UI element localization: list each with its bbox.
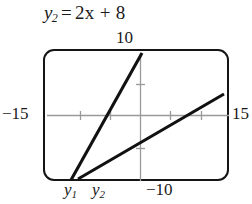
- y-max-label: 10: [116, 28, 133, 48]
- curve-label-y1: y1: [64, 180, 77, 200]
- graph-figure: y2=2x + 8 10 −15 15 −10 y1 y2: [0, 0, 252, 204]
- curve-label-y2-subscript: 2: [100, 188, 106, 200]
- curve-label-y2: y2: [92, 180, 105, 200]
- y-min-label: −10: [146, 180, 173, 200]
- calculator-screen: [43, 49, 229, 181]
- curve-label-y1-subscript: 1: [72, 188, 78, 200]
- equation-caption: y2=2x + 8: [44, 2, 126, 26]
- equation-equals-sign: =: [61, 2, 72, 23]
- equation-rhs: 2x + 8: [75, 2, 126, 23]
- x-max-label: 15: [232, 104, 249, 124]
- x-min-label: −15: [2, 104, 29, 124]
- curve-y2: [78, 94, 224, 179]
- equation-lhs-subscript: 2: [52, 11, 58, 25]
- plot-area: [45, 51, 231, 183]
